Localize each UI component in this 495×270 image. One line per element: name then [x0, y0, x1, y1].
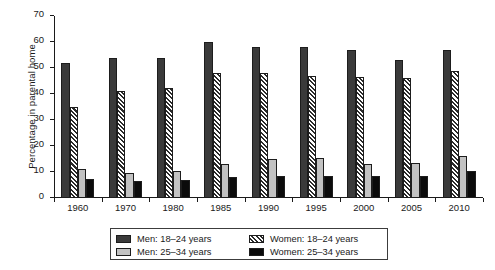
- legend-label-men-18-24: Men: 18–24 years: [137, 234, 211, 244]
- x-tick-label-1995: 1995: [292, 202, 340, 213]
- legend-item-women-18-24: Women: 18–24 years: [249, 234, 394, 244]
- bar-1970-series-1: [117, 91, 125, 198]
- bar-group-1980: [157, 16, 190, 198]
- x-tick-label-2010: 2010: [435, 202, 483, 213]
- legend-swatch-icon-women-25-34: [249, 248, 264, 256]
- bar-1985-series-3: [229, 177, 237, 198]
- bar-1970-series-0: [109, 58, 117, 198]
- legend-label-women-25-34: Women: 25–34 years: [270, 247, 358, 257]
- x-tick-label-2000: 2000: [340, 202, 388, 213]
- bar-2005-series-0: [395, 60, 403, 198]
- bar-1985-series-1: [213, 73, 221, 198]
- y-tick-20: 20: [50, 145, 54, 146]
- y-axis-line: [54, 16, 55, 198]
- bar-chart: Percentage in parental home 010203040506…: [0, 0, 495, 270]
- y-tick-label-60: 60: [33, 34, 44, 45]
- legend-label-men-25-34: Men: 25–34 years: [137, 247, 211, 257]
- legend-swatch-icon-women-18-24: [249, 235, 264, 243]
- bar-1985-series-2: [221, 164, 229, 198]
- bar-1960-series-1: [70, 107, 78, 198]
- bar-2005-series-3: [420, 176, 428, 198]
- x-tick-label-1960: 1960: [54, 202, 102, 213]
- y-tick-10: 10: [50, 171, 54, 172]
- bar-1985-series-0: [204, 42, 212, 198]
- y-tick-50: 50: [50, 67, 54, 68]
- bar-group-1960: [61, 16, 94, 198]
- chart-legend: Men: 18–24 years Women: 18–24 years Men:…: [110, 228, 388, 260]
- bar-1980-series-3: [181, 180, 189, 198]
- bar-2010-series-2: [459, 156, 467, 198]
- y-tick-label-30: 30: [33, 112, 44, 123]
- bar-1995-series-2: [316, 158, 324, 198]
- legend-swatch-icon-men-25-34: [116, 248, 131, 256]
- bar-1970-series-2: [125, 173, 133, 198]
- y-tick-label-10: 10: [33, 164, 44, 175]
- y-tick-70: 70: [50, 15, 54, 16]
- bar-2005-series-1: [403, 78, 411, 198]
- bar-2010-series-1: [451, 71, 459, 198]
- bar-2000-series-0: [347, 50, 355, 198]
- bar-1980-series-0: [157, 58, 165, 198]
- bar-2010-series-0: [443, 50, 451, 198]
- y-tick-label-0: 0: [39, 190, 44, 201]
- bar-group-1995: [300, 16, 333, 198]
- bar-1990-series-0: [252, 47, 260, 198]
- bar-1960-series-2: [78, 169, 86, 198]
- bar-group-2000: [347, 16, 380, 198]
- bar-2005-series-2: [411, 163, 419, 198]
- y-tick-label-50: 50: [33, 60, 44, 71]
- legend-item-men-25-34: Men: 25–34 years: [116, 247, 249, 257]
- bar-group-2005: [395, 16, 428, 198]
- bar-2000-series-2: [364, 164, 372, 198]
- x-tick-label-2005: 2005: [388, 202, 436, 213]
- bar-group-1970: [109, 16, 142, 198]
- bar-1970-series-3: [134, 181, 142, 198]
- bar-group-1985: [204, 16, 237, 198]
- x-tick-label-1985: 1985: [197, 202, 245, 213]
- bar-group-2010: [443, 16, 476, 198]
- bar-2010-series-3: [467, 171, 475, 198]
- bar-1960-series-3: [86, 179, 94, 199]
- bar-1995-series-1: [308, 76, 316, 198]
- bar-1990-series-1: [260, 73, 268, 198]
- y-tick-label-70: 70: [33, 8, 44, 19]
- y-tick-60: 60: [50, 41, 54, 42]
- bar-group-1990: [252, 16, 285, 198]
- bar-1990-series-2: [268, 159, 276, 198]
- x-tick-label-1980: 1980: [149, 202, 197, 213]
- legend-item-men-18-24: Men: 18–24 years: [116, 234, 249, 244]
- legend-swatch-icon-men-18-24: [116, 235, 131, 243]
- y-tick-30: 30: [50, 119, 54, 120]
- legend-item-women-25-34: Women: 25–34 years: [249, 247, 394, 257]
- y-tick-label-20: 20: [33, 138, 44, 149]
- y-tick-40: 40: [50, 93, 54, 94]
- bar-1960-series-0: [61, 63, 69, 198]
- plot-area: 010203040506070 196019701980198519901995…: [54, 16, 483, 198]
- bar-1990-series-3: [277, 176, 285, 198]
- bar-2000-series-3: [372, 176, 380, 198]
- bar-1980-series-2: [173, 171, 181, 198]
- x-tick-label-1990: 1990: [245, 202, 293, 213]
- y-tick-label-40: 40: [33, 86, 44, 97]
- bar-2000-series-1: [356, 77, 364, 198]
- bar-1995-series-0: [300, 47, 308, 198]
- bar-1995-series-3: [324, 176, 332, 198]
- bar-1980-series-1: [165, 88, 173, 199]
- legend-label-women-18-24: Women: 18–24 years: [270, 234, 358, 244]
- x-tick-label-1970: 1970: [102, 202, 150, 213]
